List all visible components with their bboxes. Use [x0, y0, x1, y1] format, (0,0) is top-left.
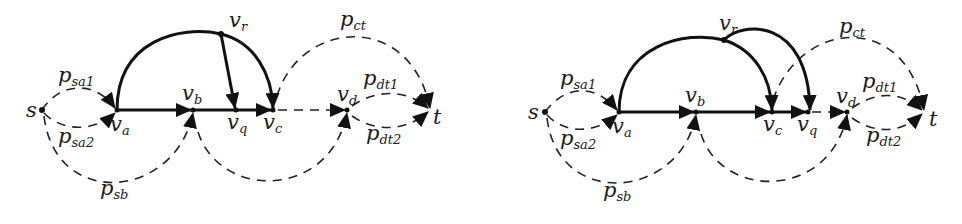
edge-va-vr-arc [117, 32, 221, 110]
label-t: t [929, 107, 938, 131]
node-s [39, 107, 45, 113]
label-pdt1: pdt1 [862, 69, 897, 95]
label-va: va [612, 114, 632, 140]
node-vr [218, 31, 224, 37]
label-vd: vd [337, 82, 357, 108]
path-psa1 [545, 91, 617, 112]
left-panel: s va vb vr vq vc vd t psa1 psa2 psb pct … [26, 7, 442, 202]
edge-vr-vc-arc [724, 40, 772, 110]
path-psa2 [547, 115, 617, 129]
node-s [542, 109, 548, 115]
label-t: t [433, 105, 442, 129]
label-vq: vq [227, 110, 247, 136]
label-pdt1: pdt1 [363, 66, 398, 92]
edge-vr-vq-arc [724, 29, 810, 110]
label-vb: vb [685, 83, 705, 109]
label-vq: vq [797, 112, 817, 138]
path-pdt2 [852, 114, 922, 130]
label-psa1: psa1 [58, 63, 94, 89]
label-pdt2: pdt2 [366, 121, 401, 147]
edge-vr-vq [221, 34, 235, 108]
label-vc: vc [763, 112, 783, 138]
path-psa2 [44, 113, 115, 127]
diagram-canvas: s va vb vr vq vc vd t psa1 psa2 psb pct … [0, 0, 962, 224]
label-pct: pct [340, 7, 367, 33]
label-psa1: psa1 [560, 66, 596, 92]
label-pct: pct [839, 14, 866, 40]
label-vr: vr [719, 11, 738, 37]
node-vd [345, 108, 350, 113]
path-pdt2 [352, 112, 428, 128]
edge-va-vr-arc [619, 37, 724, 112]
label-s: s [528, 100, 539, 124]
label-vc: vc [263, 110, 283, 136]
path-pdt1 [352, 94, 428, 109]
label-va: va [110, 112, 130, 138]
node-vb [191, 108, 196, 113]
label-psb: psb [100, 176, 128, 202]
path-psa1 [42, 88, 115, 110]
right-panel: s va vb vr vc vq vd t psa1 psa2 psb pct … [528, 11, 938, 204]
node-vd [845, 110, 850, 115]
label-s: s [26, 98, 37, 122]
node-vr [721, 37, 727, 43]
label-vb: vb [182, 81, 202, 107]
label-pdt2: pdt2 [866, 123, 901, 149]
node-vb [694, 110, 699, 115]
label-vr: vr [229, 8, 248, 34]
label-vd: vd [836, 84, 856, 110]
path-pdt1 [852, 96, 922, 111]
